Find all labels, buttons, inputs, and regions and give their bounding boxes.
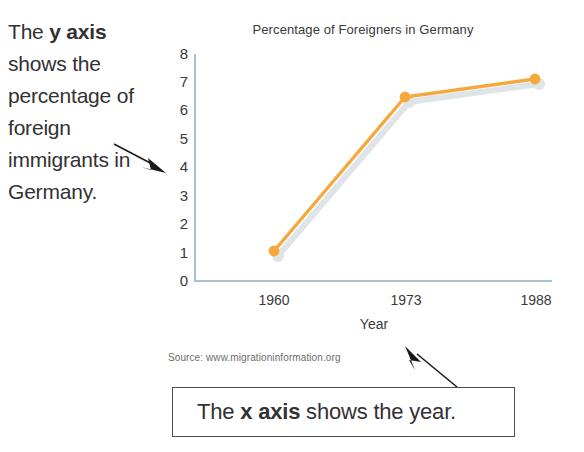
y-tick-label-4: 4 (166, 158, 188, 175)
x-axis-annotation-text: The x axis shows the year. (197, 398, 456, 426)
x-axis-pointer-arrow-icon (395, 340, 467, 392)
y-axis-annotation-prefix: The (8, 20, 49, 43)
x-axis-annotation-prefix: The (197, 399, 240, 424)
chart-series-group (194, 54, 554, 288)
series-shadow (272, 78, 545, 262)
y-tick-label-7: 7 (166, 73, 188, 90)
data-point-1988 (530, 74, 541, 85)
x-axis-annotation-box: The x axis shows the year. (172, 387, 515, 437)
y-tick-label-6: 6 (166, 101, 188, 118)
x-tick-label-1973: 1973 (371, 292, 441, 308)
chart-plot-area: 8 7 6 5 4 3 2 1 0 1960 1973 1988 Year (194, 54, 554, 288)
y-axis-pointer-arrow-icon (112, 140, 174, 182)
y-tick-label-2: 2 (166, 215, 188, 232)
x-tick-label-1988: 1988 (501, 292, 571, 308)
y-tick-label-1: 1 (166, 244, 188, 261)
y-axis-annotation-emphasis: y axis (49, 20, 106, 43)
chart-figure-page: The y axis shows the percentage of forei… (0, 0, 584, 452)
x-axis-annotation-suffix: shows the year. (300, 399, 456, 424)
y-tick-label-8: 8 (166, 45, 188, 62)
source-note: Source: www.migrationinformation.org (168, 352, 341, 363)
data-point-1973 (400, 92, 411, 103)
y-tick-label-0: 0 (166, 272, 188, 289)
y-tick-label-3: 3 (166, 187, 188, 204)
x-axis-annotation-emphasis: x axis (240, 399, 300, 424)
x-axis-title: Year (194, 316, 554, 332)
data-point-1960 (269, 246, 280, 257)
x-tick-label-1960: 1960 (239, 292, 309, 308)
chart-title: Percentage of Foreigners in Germany (168, 22, 558, 37)
series-line-percentage-of-foreigners (269, 74, 541, 257)
y-tick-label-5: 5 (166, 130, 188, 147)
line-chart: Percentage of Foreigners in Germany 8 7 … (168, 22, 568, 342)
